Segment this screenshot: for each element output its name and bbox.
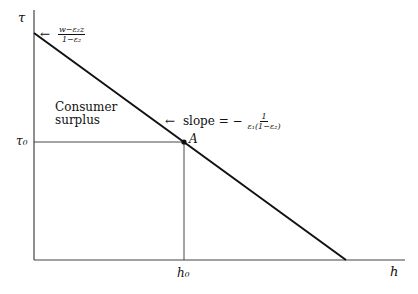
- slope-fraction: 1 ε₁(1−ε₂): [246, 112, 281, 131]
- point-a-marker: [181, 139, 186, 144]
- slope-numerator: 1: [260, 112, 267, 122]
- slope-annotation: ← slope = − 1 ε₁(1−ε₂): [165, 112, 282, 131]
- demand-line: [34, 33, 346, 260]
- left-arrow-icon: ←: [165, 114, 175, 128]
- intercept-denominator: 1−ε₂: [61, 35, 82, 44]
- intercept-fraction: w−ε₂z 1−ε₂: [58, 25, 85, 44]
- slope-denominator: ε₁(1−ε₂): [246, 122, 281, 131]
- intercept-numerator: w−ε₂z: [58, 25, 85, 35]
- h0-tick-label: h₀: [177, 266, 190, 280]
- diagram-canvas: [0, 0, 418, 294]
- x-axis-label: h: [390, 264, 398, 279]
- y-axis-label: τ: [18, 10, 25, 25]
- consumer-surplus-line2: surplus: [55, 114, 117, 127]
- consumer-surplus-label: Consumer surplus: [55, 101, 117, 127]
- point-a-label: A: [189, 132, 198, 146]
- slope-prefix: slope = −: [183, 114, 243, 128]
- tau0-tick-label: τ₀: [16, 134, 27, 148]
- intercept-annotation: ← w−ε₂z 1−ε₂: [40, 25, 85, 44]
- left-arrow-icon: ←: [40, 27, 50, 41]
